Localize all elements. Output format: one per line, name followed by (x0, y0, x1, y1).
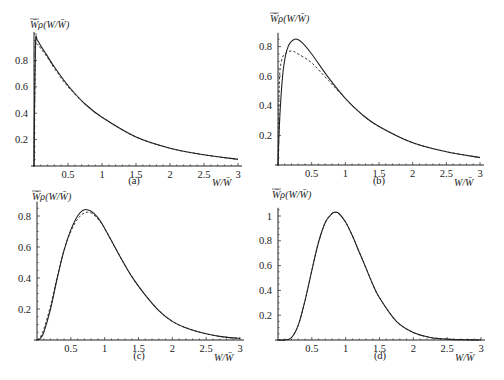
solid-curve (278, 39, 480, 165)
y-tick-label: 0.8 (259, 235, 272, 246)
x-tick-label: 3 (237, 343, 242, 354)
panel-caption: (a) (128, 175, 140, 187)
y-tick-label: 0.2 (259, 130, 272, 141)
x-tick-label: 3 (477, 168, 482, 179)
y-tick-label: 0.6 (15, 81, 28, 92)
x-tick-label: 2.5 (441, 343, 454, 354)
y-axis-label: W̄ρ(W/W̄) (270, 13, 310, 25)
y-tick-label: 0.2 (15, 134, 28, 145)
x-axis-label: W/W̄ (455, 352, 476, 363)
x-tick-label: 0.5 (61, 169, 74, 180)
y-tick-label: 0.6 (18, 242, 31, 253)
x-tick-label: 2 (410, 168, 415, 179)
dashed-curve (278, 212, 481, 340)
x-tick-label: 3 (478, 343, 483, 354)
solid-curve (34, 36, 238, 166)
x-tick-label: 2 (411, 343, 416, 354)
x-axis-label: W/W̄ (212, 177, 233, 188)
y-tick-label: 0.2 (18, 304, 31, 315)
figure: 0.511.522.530.20.40.60.8W̄ρ(W/W̄)W/W̄(a)… (0, 0, 504, 380)
x-tick-label: 1 (343, 168, 348, 179)
y-axis-label: W̄ρ(W/W̄) (32, 191, 72, 203)
y-tick-label: 0.6 (259, 260, 272, 271)
dashed-curve (278, 51, 480, 165)
y-tick-label: 0.6 (259, 71, 272, 82)
chart-panel-d: 0.511.522.530.20.40.60.81W̄ρ(W/W̄)W/W̄(d… (259, 189, 485, 363)
dashed-curve (34, 42, 238, 166)
x-tick-label: 2.5 (197, 169, 210, 180)
solid-curve (37, 210, 240, 340)
x-tick-label: 1 (343, 343, 348, 354)
y-tick-label: 0.4 (15, 108, 29, 119)
y-tick-label: 0.8 (18, 211, 31, 222)
chart-panel-b: 0.511.522.530.20.40.60.8W̄ρ(W/W̄)W/W̄(b) (259, 13, 484, 188)
x-axis-label: W/W̄ (214, 352, 235, 363)
y-tick-label: 0.8 (15, 55, 28, 66)
solid-curve (278, 212, 481, 340)
x-tick-label: 0.5 (64, 343, 77, 354)
y-tick-label: 1 (267, 211, 272, 222)
y-axis-label: W̄ρ(W/W̄) (272, 189, 312, 201)
panel-caption: (d) (374, 350, 387, 362)
y-tick-label: 0.4 (259, 285, 273, 296)
x-tick-label: 0.5 (305, 343, 318, 354)
panel-caption: (c) (133, 350, 145, 362)
x-tick-label: 2.5 (440, 168, 453, 179)
x-tick-label: 2 (167, 169, 172, 180)
y-tick-label: 0.4 (259, 100, 273, 111)
x-tick-label: 2 (170, 343, 175, 354)
chart-panel-a: 0.511.522.530.20.40.60.8W̄ρ(W/W̄)W/W̄(a) (15, 19, 242, 188)
y-tick-label: 0.4 (18, 273, 32, 284)
x-tick-label: 1 (99, 169, 104, 180)
x-axis-label: W/W̄ (454, 177, 475, 188)
dashed-curve (37, 212, 240, 340)
panel-caption: (b) (373, 175, 386, 187)
x-tick-label: 0.5 (305, 168, 318, 179)
x-tick-label: 3 (235, 169, 240, 180)
y-tick-label: 0.8 (259, 41, 272, 52)
x-tick-label: 1 (102, 343, 107, 354)
y-axis-label: W̄ρ(W/W̄) (30, 19, 70, 31)
y-tick-label: 0.2 (259, 310, 272, 321)
x-tick-label: 2.5 (200, 343, 213, 354)
chart-panel-c: 0.511.522.530.20.40.60.8W̄ρ(W/W̄)W/W̄(c) (18, 191, 244, 363)
